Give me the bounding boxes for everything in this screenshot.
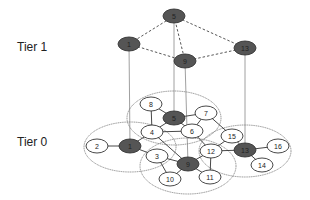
hierarchical-cluster-diagram: 51913 85746213151213161491011 — [0, 0, 310, 200]
node-tier0-15: 15 — [221, 129, 243, 143]
tier-1-nodes: 51913 — [118, 9, 256, 68]
node-tier1-9: 9 — [174, 54, 196, 68]
node-label: 9 — [183, 58, 187, 65]
node-label: 13 — [241, 147, 249, 154]
node-tier0-13: 13 — [234, 143, 256, 157]
node-label: 12 — [207, 148, 215, 155]
node-label: 1 — [127, 41, 131, 48]
node-tier0-9: 9 — [177, 157, 199, 171]
node-tier0-16: 16 — [267, 139, 289, 153]
node-label: 13 — [241, 45, 249, 52]
node-tier0-12: 12 — [200, 144, 222, 158]
node-label: 8 — [149, 101, 153, 108]
node-label: 16 — [274, 143, 282, 150]
node-label: 14 — [258, 162, 266, 169]
node-tier1-13: 13 — [234, 41, 256, 55]
node-tier0-5: 5 — [163, 111, 185, 125]
node-tier0-14: 14 — [251, 158, 273, 172]
node-tier0-11: 11 — [199, 170, 221, 184]
node-label: 6 — [190, 128, 194, 135]
node-label: 1 — [128, 143, 132, 150]
node-label: 2 — [95, 143, 99, 150]
node-label: 5 — [172, 115, 176, 122]
node-label: 5 — [172, 13, 176, 20]
node-label: 10 — [166, 176, 174, 183]
tier-1-edge — [174, 16, 245, 48]
node-label: 7 — [204, 110, 208, 117]
node-label: 9 — [186, 161, 190, 168]
node-tier0-4: 4 — [141, 125, 163, 139]
node-tier0-7: 7 — [195, 106, 217, 120]
node-tier0-10: 10 — [159, 172, 181, 186]
inter-tier-link — [185, 61, 188, 164]
node-tier0-8: 8 — [140, 97, 162, 111]
node-label: 15 — [228, 133, 236, 140]
node-label: 4 — [150, 129, 154, 136]
node-label: 3 — [155, 153, 159, 160]
node-tier0-3: 3 — [146, 149, 168, 163]
node-tier0-1: 1 — [119, 139, 141, 153]
node-tier1-5: 5 — [163, 9, 185, 23]
node-tier0-6: 6 — [181, 124, 203, 138]
node-tier0-2: 2 — [86, 139, 108, 153]
inter-tier-link — [129, 44, 130, 146]
node-label: 11 — [206, 174, 213, 181]
node-tier1-1: 1 — [118, 37, 140, 51]
